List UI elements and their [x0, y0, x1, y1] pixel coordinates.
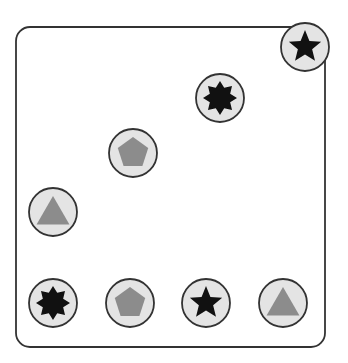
token-octagram-bottom-1[interactable]: [29, 279, 77, 327]
token-star-top-right[interactable]: [281, 23, 329, 71]
octagram-icon: [203, 81, 237, 115]
token-triangle-bottom-4[interactable]: [259, 279, 307, 327]
token-layer: [29, 23, 329, 327]
puzzle-board: [0, 0, 348, 363]
token-pentagon-middle[interactable]: [109, 129, 157, 177]
token-pentagon-bottom-2[interactable]: [106, 279, 154, 327]
token-triangle-left[interactable]: [29, 188, 77, 236]
token-octagram-top[interactable]: [196, 74, 244, 122]
token-star-bottom-3[interactable]: [182, 279, 230, 327]
octagram-icon: [36, 286, 70, 320]
